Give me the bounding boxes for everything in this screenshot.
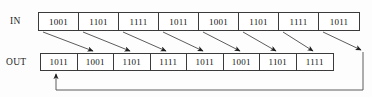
diagonal-arrow: [163, 32, 203, 51]
input-register-row: 1001 1101 1111 1011 1001 1101 1111 1011: [38, 12, 360, 31]
input-cell: 1011: [159, 13, 199, 30]
input-row-label: IN: [10, 16, 21, 26]
rotation-diagram: IN 1001 1101 1111 1011 1001 1101 1111 10…: [0, 0, 372, 97]
input-cell: 1111: [279, 13, 319, 30]
output-register-row: 1011 1001 1101 1111 1011 1001 1101 1111: [40, 53, 334, 71]
output-cell: 1001: [224, 54, 261, 70]
output-cell: 1011: [187, 54, 224, 70]
output-cell: 1111: [297, 54, 334, 70]
output-cell: 1001: [78, 54, 115, 70]
diagonal-arrow: [203, 32, 240, 51]
diagonal-arrow: [83, 32, 130, 51]
input-cell: 1001: [39, 13, 79, 30]
input-cell: 1101: [79, 13, 119, 30]
diagonal-arrow: [243, 32, 276, 51]
output-cell: 1011: [41, 54, 78, 70]
input-cell: 1011: [319, 13, 359, 30]
input-cell: 1111: [119, 13, 159, 30]
wraparound-diagonal-arrow: [323, 32, 361, 50]
output-cell: 1111: [151, 54, 188, 70]
output-row-label: OUT: [6, 57, 26, 67]
input-cell: 1001: [199, 13, 239, 30]
diagonal-arrow: [123, 32, 166, 51]
diagonal-arrow: [283, 32, 313, 51]
input-cell: 1101: [239, 13, 279, 30]
output-cell: 1101: [260, 54, 297, 70]
output-cell: 1101: [114, 54, 151, 70]
diagonal-arrow: [43, 32, 93, 51]
